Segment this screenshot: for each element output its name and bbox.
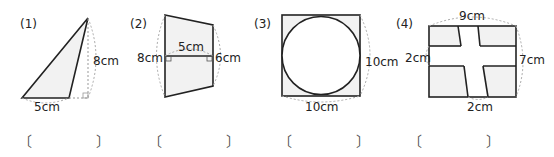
right-label: 10cm (365, 55, 399, 69)
answer-4-open: 〔 (408, 133, 422, 149)
problem-1-number: (1) (20, 17, 37, 31)
problem-2: (2) 8cm 5cm 6cm (130, 15, 241, 97)
bottom-label: 10cm (305, 100, 339, 114)
top-label: 9cm (459, 9, 485, 23)
bottom-label: 2cm (467, 100, 493, 114)
answer-3-close: 〕 (356, 133, 370, 149)
answer-2-close: 〕 (226, 133, 240, 149)
horizontal-road (429, 46, 516, 66)
problem-3: (3) 10cm 10cm (254, 15, 399, 114)
answer-1-close: 〕 (96, 133, 110, 149)
figures-canvas: (1) 8cm 5cm (2) 8cm 5cm 6cm (3) 10cm 10c… (0, 0, 554, 157)
answer-4-close: 〕 (486, 133, 500, 149)
left-label: 2cm (405, 51, 431, 65)
inscribed-circle (282, 17, 360, 95)
base-label: 5cm (34, 100, 60, 114)
answer-2-open: 〔 (148, 133, 162, 149)
problem-4: (4) 9cm 2cm 7cm 2cm (396, 9, 545, 114)
right-label: 7cm (519, 53, 545, 67)
problem-4-number: (4) (396, 17, 413, 31)
right-label: 6cm (215, 51, 241, 65)
problem-3-number: (3) (254, 17, 271, 31)
left-label: 8cm (137, 51, 163, 65)
height-label: 8cm (93, 54, 119, 68)
problem-1: (1) 8cm 5cm (20, 17, 119, 114)
right-angle-mark (83, 93, 88, 98)
problem-2-number: (2) (130, 17, 147, 31)
answer-brackets: 〔 〕 〔 〕 〔 〕 〔 〕 (18, 133, 500, 149)
answer-1-open: 〔 (18, 133, 32, 149)
answer-3-open: 〔 (278, 133, 292, 149)
middle-label: 5cm (178, 40, 204, 54)
